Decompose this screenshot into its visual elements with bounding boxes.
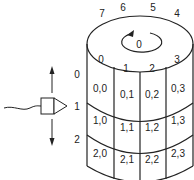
rotation-label: 0 [136,39,142,50]
cell-label: 2,3 [171,148,185,159]
track-labels: 0 1 2 [74,69,80,145]
cell-label: 1,1 [120,122,134,133]
track-label: 0 [74,69,80,80]
sector-label: 0 [98,54,104,65]
sector-label: 2 [149,63,155,74]
cell-label: 1,0 [93,115,107,126]
cell-label: 0,0 [93,83,107,94]
track-label: 1 [74,101,80,112]
arrow-down-icon [50,138,55,146]
cell-label: 1,2 [145,122,159,133]
cell-label: 0,2 [145,89,159,100]
cell-label: 1,3 [171,115,185,126]
sector-label: 1 [123,63,129,74]
sector-label: 6 [120,2,126,13]
sector-label: 5 [150,2,156,13]
sector-label: 4 [174,8,180,19]
cell-label: 0,3 [171,83,185,94]
read-write-head [4,98,67,114]
sector-label: 3 [174,54,180,65]
cell-label: 2,1 [120,154,134,165]
sector-label: 7 [99,8,105,19]
head-tip [54,98,67,114]
head-body [41,98,54,114]
arrow-up-icon [50,66,55,74]
cell-label: 0,1 [120,89,134,100]
track-label: 2 [74,134,80,145]
cell-label: 2,0 [93,148,107,159]
rotation-arrowhead-icon [127,30,134,37]
drum-diagram: 0 7 6 5 4 0 1 2 3 0 1 2 0,0 0,1 0,2 0,3 … [0,0,194,180]
cell-label: 2,2 [145,154,159,165]
cell-labels: 0,0 0,1 0,2 0,3 1,0 1,1 1,2 1,3 2,0 2,1 … [93,83,185,165]
sector-labels-front: 0 1 2 3 [98,54,180,74]
head-cable [4,106,41,109]
